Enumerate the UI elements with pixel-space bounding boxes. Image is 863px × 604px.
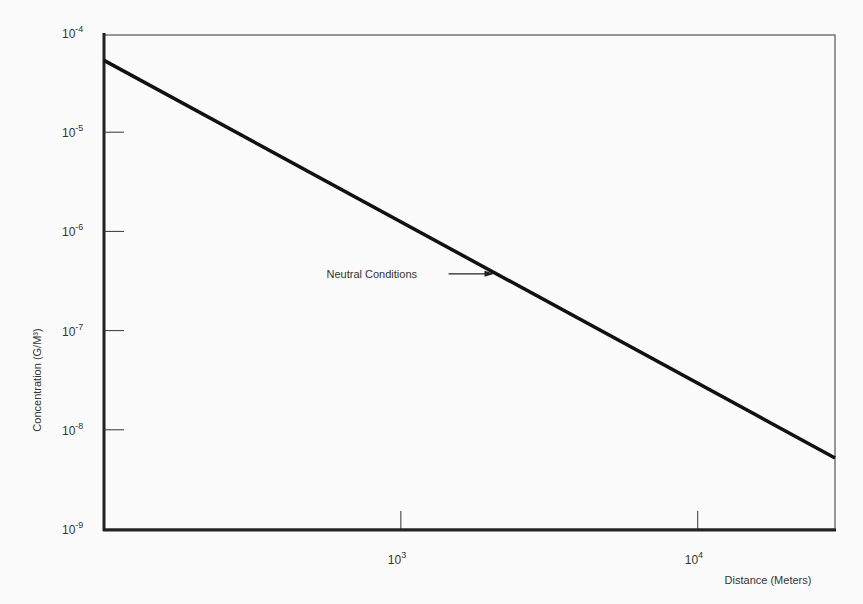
x-axis-title: Distance (Meters) [725,574,812,586]
series-line-neutral-conditions [104,60,835,458]
y-tick-label: 10-7 [62,322,83,339]
x-tick-label: 104 [685,550,703,567]
y-tick-label: 10-8 [62,421,83,438]
x-tick-label: 103 [388,550,406,567]
chart: 10-410-510-610-710-810-9 103104 Neutral … [0,0,863,604]
y-tick-label: 10-5 [62,123,83,140]
y-tick-label: 10-6 [62,222,83,239]
y-tick-label: 10-4 [62,24,83,41]
plot-frame [104,35,835,529]
y-axis-title: Concentration (G/M³) [31,328,43,431]
y-tick-label: 10-9 [62,520,83,537]
annotation-label: Neutral Conditions [327,268,418,280]
